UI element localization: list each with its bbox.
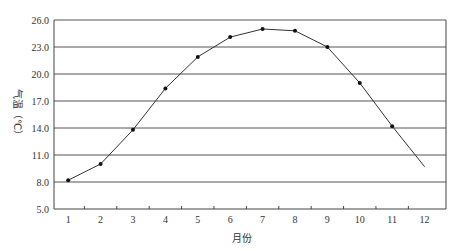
y-tick-label: 26.0 [32,15,50,26]
x-tick-label: 7 [260,214,265,225]
x-tick-label: 12 [420,214,430,225]
y-tick-label: 20.0 [32,69,50,80]
y-tick-label: 17.0 [32,96,50,107]
data-point [358,81,362,85]
x-tick-label: 1 [66,214,71,225]
y-axis-label: 气温（℃） [12,89,24,140]
x-tick-label: 5 [195,214,200,225]
data-point [66,178,70,182]
x-tick-label: 8 [292,214,297,225]
x-tick-label: 2 [98,214,103,225]
temperature-line [68,29,424,180]
x-tick-label: 9 [325,214,330,225]
x-tick-label: 11 [387,214,397,225]
data-point [390,124,394,128]
data-point [196,55,200,59]
data-point [163,86,167,90]
x-tick-label: 10 [355,214,365,225]
x-tick-label: 4 [163,214,168,225]
y-tick-label: 5.0 [37,204,50,215]
y-tick-label: 8.0 [37,177,50,188]
data-point [261,27,265,31]
data-point [99,162,103,166]
y-tick-label: 23.0 [32,42,50,53]
x-axis-label: 月份 [232,233,252,244]
x-tick-label: 3 [130,214,135,225]
data-point [228,35,232,39]
x-tick-label: 6 [228,214,233,225]
temperature-line-chart: 5.08.011.014.017.020.023.026.01234567891… [0,0,459,251]
data-point [293,29,297,33]
y-tick-label: 11.0 [32,150,49,161]
y-tick-label: 14.0 [32,123,50,134]
data-point [131,128,135,132]
data-point [325,45,329,49]
